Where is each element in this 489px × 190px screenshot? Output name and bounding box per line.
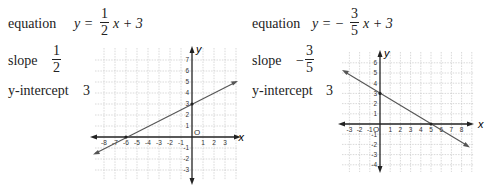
right-grid <box>342 52 474 172</box>
svg-text:5: 5 <box>429 126 433 133</box>
right-graph: x y -3-2-1 123 456 78 O 654 321 -1-2-3 -… <box>0 0 489 190</box>
arrow-left-icon <box>338 122 345 127</box>
svg-text:-2: -2 <box>371 141 377 148</box>
right-y-axis-label: y <box>383 47 391 59</box>
svg-text:5: 5 <box>373 69 377 76</box>
right-x-ticks: -3-2-1 123 456 78 <box>347 126 464 133</box>
svg-text:6: 6 <box>373 59 377 66</box>
svg-text:-3: -3 <box>371 151 377 158</box>
arrow-right-icon <box>467 122 474 127</box>
svg-text:3: 3 <box>409 126 413 133</box>
svg-text:7: 7 <box>450 126 454 133</box>
svg-text:8: 8 <box>460 126 464 133</box>
svg-text:-1: -1 <box>371 131 377 138</box>
svg-text:2: 2 <box>373 100 377 107</box>
svg-text:4: 4 <box>419 126 423 133</box>
svg-text:1: 1 <box>373 110 377 117</box>
svg-text:1: 1 <box>388 126 392 133</box>
svg-text:-3: -3 <box>347 126 353 133</box>
right-line <box>345 72 468 146</box>
right-x-axis-label: x <box>477 118 484 130</box>
svg-text:4: 4 <box>373 80 377 87</box>
svg-text:-4: -4 <box>371 161 377 168</box>
svg-text:2: 2 <box>399 126 403 133</box>
right-y-intercept-point <box>378 92 381 95</box>
right-x-intercept-point <box>429 122 432 125</box>
right-axes <box>341 54 470 169</box>
svg-text:-2: -2 <box>357 126 363 133</box>
arrow-down-icon <box>378 166 383 173</box>
arrow-up-icon <box>378 50 383 57</box>
